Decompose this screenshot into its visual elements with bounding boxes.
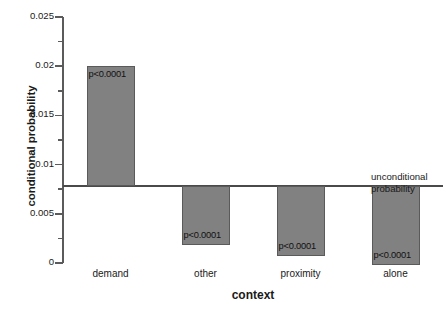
unconditional-label-line-1: unconditional [371,171,428,183]
y-tick-major [55,164,63,166]
y-tick-major [55,16,63,18]
x-tick-label: alone [348,268,443,279]
y-tick-label: 0.015 [0,108,54,119]
x-tick-label: proximity [253,268,348,279]
y-tick-major [55,213,63,215]
unconditional-probability-annotation: unconditional probability [371,171,428,194]
y-tick-label: 0.005 [0,207,54,218]
bar-p-value-label: p<0.0001 [184,230,221,240]
y-tick-label: 0 [0,256,54,267]
x-tick-label: demand [63,268,158,279]
unconditional-label-line-2: probability [371,183,428,195]
y-tick-major [55,262,63,264]
bar[interactable] [87,66,135,186]
y-tick-label: 0.025 [0,10,54,21]
bar-p-value-label: p<0.0001 [89,69,126,79]
x-axis-title: context [63,288,443,302]
bar-p-value-label: p<0.0001 [374,250,411,260]
y-tick-label: 0.02 [0,59,54,70]
plot-area: p<0.0001p<0.0001p<0.0001p<0.0001 [63,17,443,263]
y-tick-label: 0.01 [0,158,54,169]
y-tick-major [55,115,63,117]
x-tick-label: other [158,268,253,279]
bar-p-value-label: p<0.0001 [279,241,316,251]
bar-chart: conditional probability 00.0050.010.0150… [0,0,443,310]
y-tick-major [55,65,63,67]
